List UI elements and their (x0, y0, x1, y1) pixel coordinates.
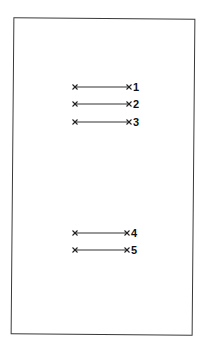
segment-label: 1 (133, 81, 139, 93)
segment-label: 2 (133, 98, 139, 110)
segment-3: 3 (73, 116, 140, 128)
segment-label: 3 (133, 116, 139, 128)
segment-diagram: 1 2 3 4 (0, 0, 213, 352)
segment-label: 5 (131, 244, 137, 256)
segment-5: 5 (73, 244, 138, 256)
segment-2: 2 (73, 98, 140, 110)
segment-1: 1 (73, 81, 140, 93)
segment-4: 4 (73, 227, 139, 239)
segment-label: 4 (131, 227, 138, 239)
